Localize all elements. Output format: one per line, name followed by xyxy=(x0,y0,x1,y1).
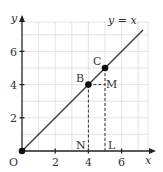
point-label-N: N xyxy=(76,139,86,152)
line-y-equals-x xyxy=(22,30,143,151)
coordinate-diagram: y = x y x O 2 4 6 2 4 6 B C M N L xyxy=(0,0,163,172)
x-tick-4: 4 xyxy=(85,156,92,169)
point-label-M: M xyxy=(106,78,117,91)
x-tick-6: 6 xyxy=(118,156,125,169)
x-axis-label: x xyxy=(145,154,152,167)
y-axis-label: y xyxy=(10,12,18,25)
point-label-B: B xyxy=(76,72,84,85)
y-tick-4: 4 xyxy=(10,79,17,92)
y-axis-arrow-icon xyxy=(19,15,25,22)
point-label-C: C xyxy=(93,55,101,68)
dashed-guides xyxy=(88,68,105,151)
line-label: y = x xyxy=(107,14,137,27)
point-origin xyxy=(19,148,26,155)
x-tick-2: 2 xyxy=(52,156,59,169)
point-C xyxy=(102,65,109,72)
point-label-L: L xyxy=(108,139,116,152)
y-tick-2: 2 xyxy=(10,112,17,125)
y-tick-6: 6 xyxy=(10,46,17,59)
point-B xyxy=(85,81,92,88)
origin-label: O xyxy=(9,156,18,169)
